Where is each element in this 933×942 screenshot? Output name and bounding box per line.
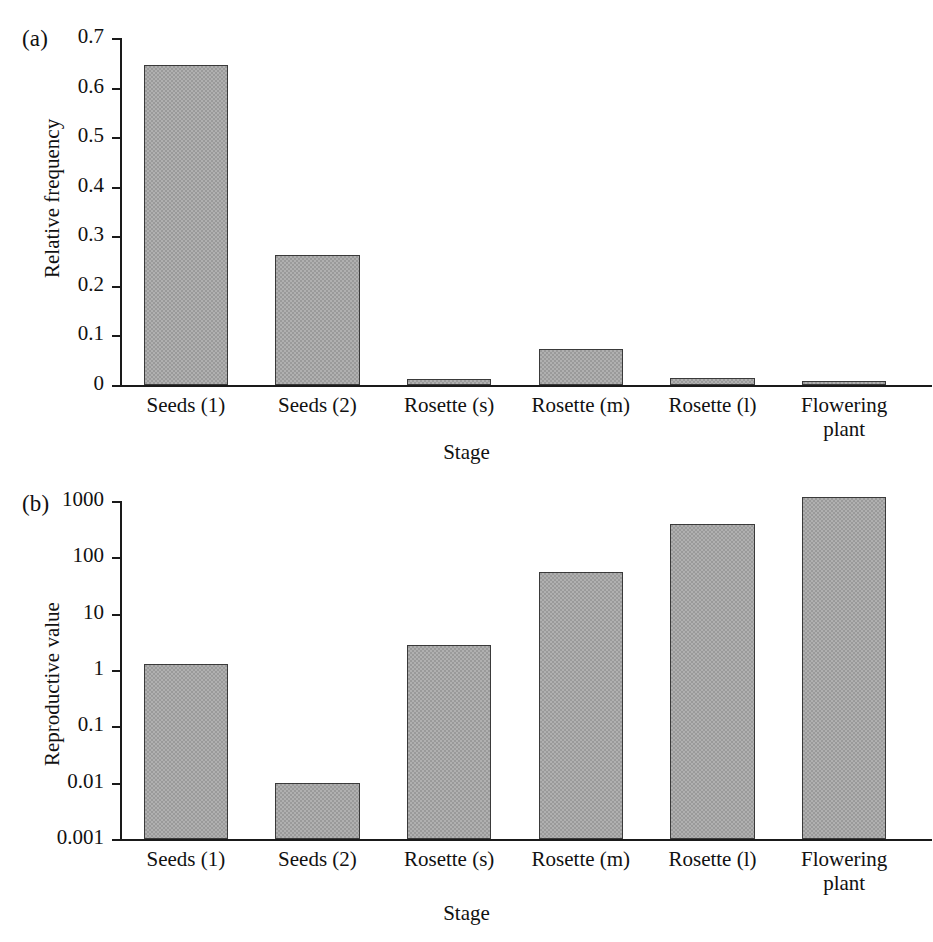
figure-root: (a) Relative frequency 00.10.20.30.40.50…	[0, 0, 933, 942]
x-axis-line	[120, 385, 932, 387]
x-axis-category-label: Flowering plant	[778, 394, 910, 441]
y-axis-tick-label: 1000	[12, 487, 104, 512]
y-axis-tick	[112, 557, 120, 559]
y-axis-tick	[112, 670, 120, 672]
y-axis-tick-label: 0.01	[12, 769, 104, 794]
y-axis-tick	[112, 38, 120, 40]
bar	[802, 497, 886, 839]
y-axis-tick-label: 0.6	[12, 74, 104, 99]
y-axis-tick-label: 0.5	[12, 123, 104, 148]
panel-b-x-axis-title: Stage	[0, 901, 933, 926]
x-axis-category-label: Flowering plant	[778, 848, 910, 895]
y-axis-tick	[112, 385, 120, 387]
y-axis-line	[120, 501, 122, 840]
bar	[144, 65, 228, 385]
x-axis-category-label: Rosette (l)	[647, 848, 779, 872]
y-axis-tick-label: 100	[12, 543, 104, 568]
x-axis-category-label: Rosette (m)	[515, 848, 647, 872]
bar	[275, 783, 359, 839]
x-axis-category-label: Seeds (2)	[252, 394, 384, 418]
bar	[275, 255, 359, 385]
y-axis-tick-label: 0.1	[12, 321, 104, 346]
y-axis-tick	[112, 88, 120, 90]
y-axis-tick-label: 10	[12, 600, 104, 625]
bar	[539, 349, 623, 385]
y-axis-tick	[112, 236, 120, 238]
panel-a-x-axis-title: Stage	[0, 440, 933, 465]
panel-b: (b) Reproductive value 0.0010.010.111010…	[0, 471, 933, 942]
x-axis-category-label: Seeds (1)	[120, 394, 252, 418]
y-axis-tick-label: 0.1	[12, 712, 104, 737]
x-axis-category-label: Rosette (s)	[383, 394, 515, 418]
bar	[144, 664, 228, 839]
panel-a-plot-area: 00.10.20.30.40.50.60.7Seeds (1)Seeds (2)…	[0, 0, 933, 471]
y-axis-tick	[112, 501, 120, 503]
y-axis-tick	[112, 614, 120, 616]
x-axis-line	[120, 839, 932, 841]
bar	[539, 572, 623, 839]
y-axis-line	[120, 38, 122, 386]
panel-a: (a) Relative frequency 00.10.20.30.40.50…	[0, 0, 933, 471]
bar	[670, 524, 754, 839]
x-axis-category-label: Rosette (l)	[647, 394, 779, 418]
x-axis-category-label: Rosette (m)	[515, 394, 647, 418]
y-axis-tick-label: 0.4	[12, 173, 104, 198]
y-axis-tick-label: 0.3	[12, 222, 104, 247]
y-axis-tick	[112, 137, 120, 139]
y-axis-tick	[112, 726, 120, 728]
x-axis-category-label: Seeds (2)	[252, 848, 384, 872]
bar	[670, 378, 754, 385]
y-axis-tick-label: 0	[12, 371, 104, 396]
y-axis-tick-label: 0.7	[12, 24, 104, 49]
y-axis-tick	[112, 839, 120, 841]
x-axis-category-label: Rosette (s)	[383, 848, 515, 872]
y-axis-tick-label: 0.2	[12, 272, 104, 297]
panel-b-plot-area: 0.0010.010.11101001000Seeds (1)Seeds (2)…	[0, 471, 933, 942]
y-axis-tick	[112, 783, 120, 785]
y-axis-tick	[112, 187, 120, 189]
y-axis-tick	[112, 335, 120, 337]
bar	[802, 381, 886, 385]
bar	[407, 645, 491, 839]
x-axis-category-label: Seeds (1)	[120, 848, 252, 872]
y-axis-tick-label: 0.001	[12, 825, 104, 850]
y-axis-tick	[112, 286, 120, 288]
bar	[407, 379, 491, 385]
y-axis-tick-label: 1	[12, 656, 104, 681]
